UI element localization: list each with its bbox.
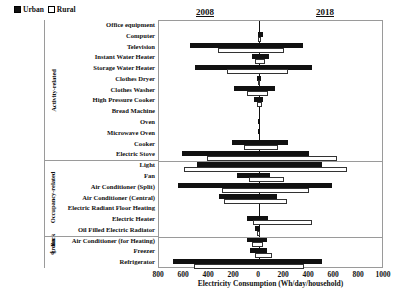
legend-swatch-rural-icon <box>48 6 55 13</box>
bar-rural-12 <box>207 156 337 161</box>
y-label-3: Instant Water Heater <box>95 54 155 61</box>
x-tick-1: 600 <box>177 270 188 279</box>
x-axis-title: Electricity Consumption (Wh/day/househol… <box>158 279 383 288</box>
plot-area <box>158 20 383 268</box>
bar-rural-14 <box>249 177 284 182</box>
x-tick-2: 400 <box>202 270 213 279</box>
group-label-0: Activity-related <box>45 20 61 160</box>
x-tick-6: 400 <box>302 270 313 279</box>
era-label-2008: 2008 <box>196 7 214 17</box>
bar-rural-4 <box>227 69 288 74</box>
x-tick-9: 1000 <box>376 270 391 279</box>
bar-rural-13 <box>184 167 347 172</box>
legend-swatch-urban-icon <box>14 6 21 13</box>
bar-rural-1 <box>258 37 261 42</box>
y-label-15: Air Conditioner (Split) <box>91 184 155 191</box>
bar-urban-9 <box>258 119 260 124</box>
y-label-11: Cooker <box>134 141 155 148</box>
group-label-1: Occupancy-related <box>45 160 61 235</box>
chart-figure: Urban Rural 2008 2018 Activity-relatedOc… <box>0 0 404 305</box>
legend-label-urban: Urban <box>23 5 44 14</box>
x-tick-4: 0 <box>256 270 260 279</box>
y-label-7: High Pressure Cooker <box>93 97 155 104</box>
y-label-6: Clothes Washer <box>111 87 155 94</box>
bar-rural-6 <box>247 91 268 96</box>
y-label-10: Microwave Oven <box>107 130 155 137</box>
y-label-8: Bread Machine <box>112 108 155 115</box>
y-label-0: Office equipment <box>106 22 155 29</box>
x-tick-8: 800 <box>352 270 363 279</box>
bar-rural-5 <box>258 80 261 85</box>
legend-label-rural: Rural <box>57 5 76 14</box>
bar-rural-7 <box>257 102 262 107</box>
bar-rural-18 <box>253 220 312 225</box>
y-label-18: Electric Heater <box>112 216 155 223</box>
x-tick-3: 200 <box>227 270 238 279</box>
group-label-text: Activity-related <box>50 69 57 112</box>
y-label-17: Electric Radiant Floor Heating <box>68 205 155 212</box>
group-label-text: Occupancy-related <box>50 172 57 224</box>
bar-rural-16 <box>224 199 287 204</box>
plot-group-separator-2 <box>159 237 382 238</box>
plot-group-separator-1 <box>159 161 382 162</box>
legend-item-urban: Urban <box>14 5 44 14</box>
bar-rural-15 <box>222 188 310 193</box>
y-label-14: Fan <box>144 173 155 180</box>
x-tick-5: 200 <box>277 270 288 279</box>
y-axis-labels: Office equipmentComputerTelevisionInstan… <box>60 20 157 268</box>
y-label-4: Storage Water Heater <box>93 65 155 72</box>
group-label-2: Background <box>45 236 61 258</box>
bar-rural-21 <box>255 253 271 258</box>
y-label-1: Computer <box>126 33 155 40</box>
legend-item-rural: Rural <box>48 5 76 14</box>
x-tick-0: 800 <box>152 270 163 279</box>
y-label-16: Air Conditioner (Central) <box>82 195 155 202</box>
y-label-19: Oil Filled Electric Radiator <box>78 227 155 234</box>
y-label-2: Television <box>127 44 155 51</box>
x-tick-7: 600 <box>327 270 338 279</box>
era-label-2018: 2018 <box>316 7 334 17</box>
y-label-20: Air Conditioner (for Heating) <box>72 238 155 245</box>
bar-rural-20 <box>252 242 263 247</box>
bar-rural-11 <box>244 145 278 150</box>
y-label-5: Clothes Dryer <box>115 76 155 83</box>
bar-rural-2 <box>218 48 284 53</box>
group-label-text: d <box>50 251 56 254</box>
y-label-13: Light <box>140 162 155 169</box>
y-label-22: Refrigerator <box>119 259 155 266</box>
bar-rural-19 <box>257 231 260 236</box>
y-label-12: Electric Stove <box>116 151 155 158</box>
bar-urban-10 <box>258 129 260 134</box>
y-label-9: Oven <box>140 119 155 126</box>
bar-rural-3 <box>255 59 266 64</box>
chart-legend: Urban Rural <box>14 5 76 14</box>
y-label-21: Freezer <box>134 248 155 255</box>
